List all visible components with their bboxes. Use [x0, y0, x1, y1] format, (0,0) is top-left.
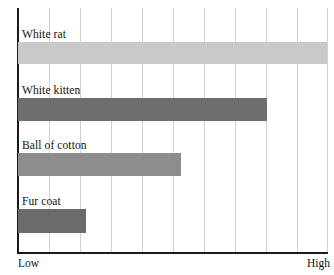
bar-group-white-rat: White rat [18, 42, 328, 64]
bar[interactable] [18, 98, 267, 121]
bar-group-white-kitten: White kitten [18, 98, 328, 121]
bar-label: White kitten [22, 84, 80, 97]
bar-label: White rat [22, 28, 66, 41]
axis-label-low: Low [18, 256, 39, 270]
bar-group-ball-of-cotton: Ball of cotton [18, 153, 328, 176]
bar[interactable] [18, 42, 327, 64]
bar[interactable] [18, 209, 86, 233]
bar[interactable] [18, 153, 181, 176]
bar-label: Ball of cotton [22, 139, 87, 152]
bar-label: Fur coat [22, 195, 61, 208]
bar-chart: White rat White kitten Ball of cotton Fu… [0, 0, 334, 275]
axis-label-high: High [307, 256, 330, 270]
bar-group-fur-coat: Fur coat [18, 209, 328, 233]
x-axis-line [17, 252, 328, 254]
